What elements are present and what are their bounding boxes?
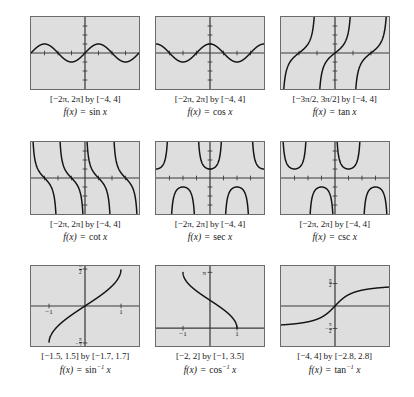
plot-box-sin	[30, 16, 140, 90]
range-label-arcsin: [−1.5, 1.5] by [−1.7, 1.7]	[41, 351, 129, 362]
axis-label-arctan-1: −π2	[317, 320, 331, 337]
range-label-cot: [−2π, 2π] by [−4, 4]	[50, 219, 120, 230]
plot-box-tan	[280, 16, 390, 90]
function-label-tan: f(x) = tan x	[293, 106, 377, 118]
range-label-arccos: [−2, 2] by [−1, 3.5]	[176, 351, 244, 362]
plot-box-arccos: −11π	[155, 265, 265, 347]
range-label-arctan: [−4, 4] by [−2.8, 2.8]	[297, 351, 372, 362]
axis-label-arctan-0: π2	[317, 276, 331, 293]
function-label-cot: f(x) = cot x	[50, 231, 120, 243]
range-label-csc: [−2π, 2π] by [−4, 4]	[299, 219, 369, 230]
function-label-cos: f(x) = cos x	[175, 106, 245, 118]
panel-sin: [−2π, 2π] by [−4, 4]f(x) = sin x	[27, 16, 144, 139]
panel-sec: [−2π, 2π] by [−4, 4]f(x) = sec x	[152, 141, 269, 264]
range-label-sin: [−2π, 2π] by [−4, 4]	[50, 94, 120, 105]
axes-csc	[281, 142, 389, 214]
panel-cos: [−2π, 2π] by [−4, 4]f(x) = cos x	[152, 16, 269, 139]
function-label-arcsin: f(x) = sin−1 x	[41, 364, 129, 376]
axis-label-arcsin-1: 1	[120, 308, 124, 316]
range-label-sec: [−2π, 2π] by [−4, 4]	[175, 219, 245, 230]
panel-csc: [−2π, 2π] by [−4, 4]f(x) = csc x	[276, 141, 393, 264]
axis-label-arccos-0: −1	[179, 330, 187, 338]
caption-csc: [−2π, 2π] by [−4, 4]f(x) = csc x	[299, 219, 369, 243]
function-label-sec: f(x) = sec x	[175, 231, 245, 243]
caption-sec: [−2π, 2π] by [−4, 4]f(x) = sec x	[175, 219, 245, 243]
trig-function-figure: [−2π, 2π] by [−4, 4]f(x) = sin x[−2π, 2π…	[0, 0, 414, 397]
caption-arcsin: [−1.5, 1.5] by [−1.7, 1.7]f(x) = sin−1 x	[41, 351, 129, 375]
axes-cot	[31, 142, 139, 214]
panel-arcsin: −11π2−π2[−1.5, 1.5] by [−1.7, 1.7]f(x) =…	[27, 265, 144, 388]
axis-label-arcsin-0: −1	[46, 308, 54, 316]
axes-cos	[156, 17, 264, 89]
axis-label-arccos-2: π	[202, 269, 206, 277]
caption-sin: [−2π, 2π] by [−4, 4]f(x) = sin x	[50, 94, 120, 118]
function-label-sin: f(x) = sin x	[50, 106, 120, 118]
caption-cos: [−2π, 2π] by [−4, 4]f(x) = cos x	[175, 94, 245, 118]
caption-arctan: [−4, 4] by [−2.8, 2.8]f(x) = tan−1 x	[297, 351, 372, 375]
panel-grid: [−2π, 2π] by [−4, 4]f(x) = sin x[−2π, 2π…	[27, 16, 393, 388]
panel-arccos: −11π[−2, 2] by [−1, 3.5]f(x) = cos−1 x	[152, 265, 269, 388]
range-label-tan: [−3π/2, 3π/2] by [−4, 4]	[293, 94, 377, 105]
axes-arccos	[156, 266, 264, 346]
caption-cot: [−2π, 2π] by [−4, 4]f(x) = cot x	[50, 219, 120, 243]
plot-box-sec	[155, 141, 265, 215]
axis-label-arcsin-3: −π2	[68, 335, 82, 346]
panel-tan: [−3π/2, 3π/2] by [−4, 4]f(x) = tan x	[276, 16, 393, 139]
plot-box-cos	[155, 16, 265, 90]
plot-box-cot	[30, 141, 140, 215]
plot-box-csc	[280, 141, 390, 215]
axis-label-arccos-1: 1	[235, 330, 239, 338]
caption-tan: [−3π/2, 3π/2] by [−4, 4]f(x) = tan x	[293, 94, 377, 118]
axis-label-arcsin-2: π2	[68, 266, 82, 277]
caption-arccos: [−2, 2] by [−1, 3.5]f(x) = cos−1 x	[176, 351, 244, 375]
function-label-arccos: f(x) = cos−1 x	[176, 364, 244, 376]
function-label-arctan: f(x) = tan−1 x	[297, 364, 372, 376]
panel-cot: [−2π, 2π] by [−4, 4]f(x) = cot x	[27, 141, 144, 264]
range-label-cos: [−2π, 2π] by [−4, 4]	[175, 94, 245, 105]
plot-box-arctan: π2−π2	[280, 265, 390, 347]
plot-box-arcsin: −11π2−π2	[30, 265, 140, 347]
panel-arctan: π2−π2[−4, 4] by [−2.8, 2.8]f(x) = tan−1 …	[276, 265, 393, 388]
function-label-csc: f(x) = csc x	[299, 231, 369, 243]
